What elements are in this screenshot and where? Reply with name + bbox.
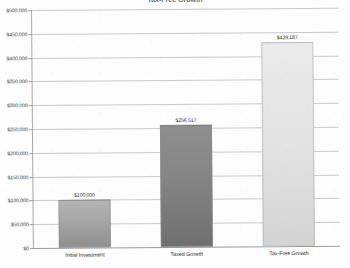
y-axis-tick — [29, 82, 33, 83]
y-axis-tick — [28, 58, 32, 59]
y-axis-tick — [30, 201, 34, 202]
y-axis-label: $500,000 — [6, 7, 27, 13]
bar — [261, 42, 315, 247]
y-axis-tick — [29, 129, 33, 130]
gridlines-group — [32, 8, 337, 10]
y-axis-tick — [29, 105, 33, 106]
y-axis-tick — [30, 248, 34, 249]
y-axis-label: $0 — [23, 245, 29, 251]
gridline — [32, 8, 338, 11]
y-axis-label: $50,000 — [11, 221, 29, 227]
bar-chart: Tax-Free Growth $0$50,000$100,000$150,00… — [0, 0, 350, 268]
bar-value-label: $100,000 — [74, 192, 95, 198]
y-axis-tick — [29, 177, 33, 178]
y-axis-label: $450,000 — [6, 31, 27, 37]
y-axis-tick — [30, 224, 34, 225]
y-axis-tick — [28, 34, 32, 35]
y-axis-tick — [28, 10, 32, 11]
plot-area: $0$50,000$100,000$150,000$200,000$250,00… — [31, 8, 339, 248]
x-axis-category-label: Tax-Free Growth — [269, 250, 308, 257]
y-axis-label: $400,000 — [7, 55, 28, 61]
x-axis-category-label: Initial Investment — [65, 252, 105, 259]
plot-skew-wrapper: $0$50,000$100,000$150,000$200,000$250,00… — [0, 0, 350, 268]
y-axis-tick — [29, 153, 33, 154]
y-axis-label: $100,000 — [8, 198, 29, 204]
y-axis-label: $150,000 — [7, 174, 28, 180]
y-axis-label: $350,000 — [7, 79, 28, 85]
y-axis-label: $250,000 — [7, 126, 28, 132]
chart-title-cropped: Tax-Free Growth — [120, 0, 230, 3]
y-axis-label: $200,000 — [7, 150, 28, 156]
bar — [160, 125, 213, 247]
bar-value-label: $256,517 — [175, 117, 196, 123]
bar-value-label: $429,187 — [277, 34, 298, 40]
x-axis-category-label: Taxed Growth — [171, 251, 204, 258]
bar — [59, 200, 111, 248]
chart-title-text: Tax-Free Growth — [120, 0, 230, 3]
y-axis-label: $300,000 — [7, 102, 28, 108]
